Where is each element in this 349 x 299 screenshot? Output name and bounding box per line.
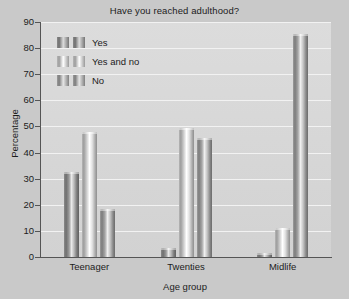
legend-item[interactable]: No bbox=[57, 71, 177, 90]
category-label: Twenties bbox=[136, 261, 236, 272]
y-tick: 20 bbox=[0, 200, 34, 210]
y-tick-mark bbox=[35, 153, 40, 154]
y-tick-mark bbox=[35, 48, 40, 49]
bar bbox=[179, 128, 194, 257]
legend-label: No bbox=[92, 75, 104, 86]
legend-item[interactable]: Yes bbox=[57, 33, 177, 52]
y-tick: 40 bbox=[0, 148, 34, 158]
y-tick-mark bbox=[35, 74, 40, 75]
gridline bbox=[41, 100, 331, 101]
bar-chart: Have you reached adulthood? Percentage 0… bbox=[0, 0, 349, 299]
legend-item[interactable]: Yes and no bbox=[57, 52, 177, 71]
y-tick-mark bbox=[35, 22, 40, 23]
bar bbox=[293, 34, 308, 257]
legend-swatch bbox=[57, 75, 85, 86]
bar bbox=[82, 132, 97, 257]
legend-label: Yes bbox=[92, 37, 108, 48]
y-tick-mark bbox=[35, 126, 40, 127]
gridline bbox=[41, 22, 331, 23]
bar-top-highlight bbox=[161, 248, 176, 250]
y-tick-mark bbox=[35, 231, 40, 232]
category-label: Teenager bbox=[39, 261, 139, 272]
y-tick-label: 20 bbox=[4, 200, 34, 210]
y-tick-label: 40 bbox=[4, 148, 34, 158]
y-tick-mark bbox=[35, 205, 40, 206]
bar bbox=[100, 209, 115, 257]
chart-title: Have you reached adulthood? bbox=[0, 5, 349, 16]
y-tick-mark bbox=[35, 179, 40, 180]
y-tick: 90 bbox=[0, 17, 34, 27]
y-tick-label: 80 bbox=[4, 43, 34, 53]
category-label: Midlife bbox=[233, 261, 333, 272]
x-axis-line bbox=[40, 257, 332, 258]
y-tick-label: 30 bbox=[4, 174, 34, 184]
y-tick-mark bbox=[35, 100, 40, 101]
legend-label: Yes and no bbox=[92, 56, 139, 67]
y-tick-label: 0 bbox=[4, 252, 34, 262]
y-tick-label: 90 bbox=[4, 17, 34, 27]
bar-top-highlight bbox=[293, 34, 308, 36]
y-axis-label: Percentage bbox=[9, 94, 20, 174]
y-tick-label: 60 bbox=[4, 95, 34, 105]
x-axis-label: Age group bbox=[40, 281, 330, 292]
y-tick-label: 50 bbox=[4, 121, 34, 131]
bar-top-highlight bbox=[257, 253, 272, 255]
chart-legend: YesYes and noNo bbox=[57, 33, 177, 90]
y-tick: 10 bbox=[0, 226, 34, 236]
bar-top-highlight bbox=[275, 228, 290, 230]
y-tick-label: 70 bbox=[4, 69, 34, 79]
bar bbox=[161, 248, 176, 257]
bar bbox=[64, 172, 79, 257]
legend-swatch bbox=[57, 37, 85, 48]
y-tick: 30 bbox=[0, 174, 34, 184]
y-tick-label: 10 bbox=[4, 226, 34, 236]
bar-top-highlight bbox=[179, 128, 194, 130]
bar bbox=[197, 138, 212, 257]
y-tick-mark bbox=[35, 257, 40, 258]
y-tick: 80 bbox=[0, 43, 34, 53]
y-tick: 0 bbox=[0, 252, 34, 262]
y-tick: 70 bbox=[0, 69, 34, 79]
bar bbox=[257, 253, 272, 257]
y-tick: 50 bbox=[0, 121, 34, 131]
bar-top-highlight bbox=[197, 138, 212, 140]
bar-top-highlight bbox=[82, 132, 97, 134]
bar-top-highlight bbox=[100, 209, 115, 211]
y-tick: 60 bbox=[0, 95, 34, 105]
bar-top-highlight bbox=[64, 172, 79, 174]
bar bbox=[275, 228, 290, 257]
legend-swatch bbox=[57, 56, 85, 67]
